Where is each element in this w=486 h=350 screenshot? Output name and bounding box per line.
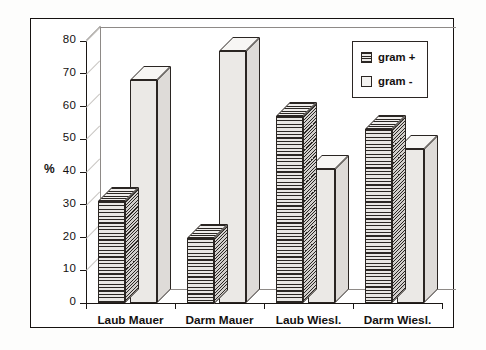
x-tick-3 xyxy=(353,303,354,309)
bar-side-face xyxy=(303,102,317,303)
x-tick-label-0: Laub Mauer xyxy=(86,313,175,327)
y-depth-gridline-80 xyxy=(86,28,100,42)
y-depth-gridline-40 xyxy=(86,159,100,173)
x-tick-label-3: Darm Wiesl. xyxy=(353,313,442,327)
bar-gram-3 xyxy=(365,129,392,303)
x-tick-1 xyxy=(175,303,176,309)
bar-side-face xyxy=(335,155,349,303)
x-tick-4 xyxy=(442,303,443,309)
bar-side-face xyxy=(392,115,406,303)
bar-front-face xyxy=(187,238,214,304)
legend-label-gram-plus: gram + xyxy=(378,51,415,63)
plot-area: 01020304050607080 % Laub MauerDarm Mauer… xyxy=(0,0,486,350)
hatched-square-icon xyxy=(361,52,372,63)
bar-front-face xyxy=(98,201,125,303)
bar-gram-1 xyxy=(187,238,214,304)
empty-square-icon xyxy=(361,76,372,87)
bar-front-face xyxy=(276,116,303,303)
y-depth-gridline-50 xyxy=(86,126,100,140)
bar-side-face xyxy=(424,135,438,303)
bar-gram-0 xyxy=(98,201,125,303)
bar-side-face xyxy=(125,187,139,303)
bar-front-face xyxy=(365,129,392,303)
x-tick-2 xyxy=(264,303,265,309)
y-depth-gridline-60 xyxy=(86,93,100,107)
back-top-rail xyxy=(100,27,456,28)
x-tick-label-2: Laub Wiesl. xyxy=(264,313,353,327)
bar-side-face xyxy=(157,66,171,303)
x-tick-label-1: Darm Mauer xyxy=(175,313,264,327)
chart-figure: 01020304050607080 % Laub MauerDarm Mauer… xyxy=(0,0,486,350)
chart-legend: gram + gram - xyxy=(352,41,428,98)
legend-label-gram-minus: gram - xyxy=(378,75,413,87)
bar-gram-2 xyxy=(276,116,303,303)
x-tick-0 xyxy=(86,303,87,309)
y-axis-label: % xyxy=(44,162,55,176)
y-depth-gridline-70 xyxy=(86,60,100,74)
bar-side-face xyxy=(246,37,260,303)
